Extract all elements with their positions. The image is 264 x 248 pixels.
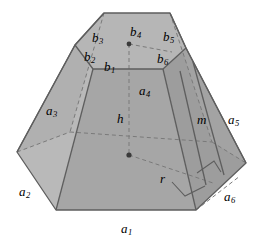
figure-canvas: a1 a2 a3 a4 a5 a6 b1 b2 b3 b4 b5 b6 h m …: [0, 0, 264, 248]
label-b4: b4: [130, 25, 141, 40]
label-b1: b1: [104, 60, 115, 75]
label-m: m: [197, 113, 206, 126]
label-h: h: [117, 112, 124, 125]
label-a1: a1: [121, 222, 132, 237]
label-a2: a2: [19, 185, 30, 200]
label-b2: b2: [84, 50, 95, 65]
bottom-center-dot: [126, 152, 131, 157]
label-a5: a5: [228, 113, 239, 128]
label-a3: a3: [46, 104, 57, 119]
label-r: r: [160, 172, 165, 185]
label-a6: a6: [224, 190, 235, 205]
label-b3: b3: [92, 31, 103, 46]
label-b6: b6: [157, 52, 168, 67]
label-a4: a4: [139, 84, 150, 99]
label-b5: b5: [163, 30, 174, 45]
top-center-dot: [127, 42, 132, 47]
